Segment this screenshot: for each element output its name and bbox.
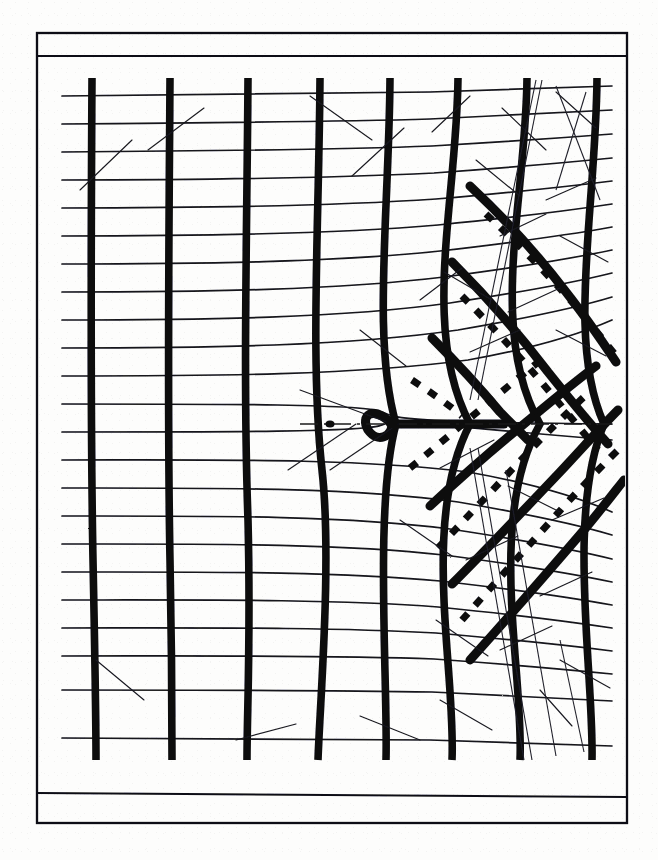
scanned-page: 1951)	[0, 0, 658, 860]
figure-area	[0, 0, 658, 860]
flow-net-figure	[0, 0, 658, 860]
